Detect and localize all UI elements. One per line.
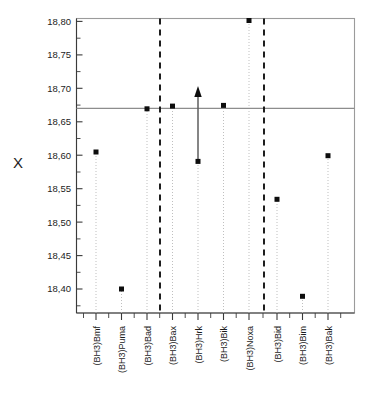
data-point[interactable]	[275, 197, 280, 202]
y-tick-label: 18,65	[47, 116, 71, 127]
category-label-bad: (BH3)Bad	[143, 326, 153, 366]
category-label-hrk: (BH3)Hrk	[194, 326, 204, 364]
data-point[interactable]	[145, 106, 150, 111]
data-point[interactable]	[221, 103, 226, 108]
data-point[interactable]	[300, 294, 305, 299]
category-label-bak: (BH3)Bak	[324, 326, 334, 366]
arrow-annotation-hrk	[194, 86, 201, 160]
y-tick-label: 18,80	[47, 16, 71, 27]
y-axis-tick-labels: 18,80 18,75 18,70 18,65 18,60 18,55 18,5…	[47, 16, 71, 295]
chart-container: 18,80 18,75 18,70 18,65 18,60 18,55 18,5…	[0, 0, 371, 396]
data-point[interactable]	[170, 104, 175, 109]
data-point[interactable]	[326, 153, 331, 158]
category-label-bid: (BH3)Bid	[273, 326, 283, 363]
y-tick-label: 18,50	[47, 217, 71, 228]
y-axis-title: X	[13, 154, 23, 171]
category-label-bmf: (BH3)Bmf	[92, 326, 102, 366]
x-axis-ticks	[84, 313, 341, 320]
data-point[interactable]	[119, 287, 124, 292]
plot-frame	[77, 19, 355, 314]
category-label-bik: (BH3)Bik	[219, 326, 229, 363]
category-label-bim: (BH3)Bim	[298, 326, 308, 365]
x-axis-category-labels: (BH3)Bmf (BH3)Puma (BH3)Bad (BH3)Bax (BH…	[92, 326, 334, 374]
category-label-bax: (BH3)Bax	[168, 326, 178, 366]
data-point[interactable]	[247, 18, 252, 23]
category-label-puma: (BH3)Puma	[117, 326, 127, 373]
category-label-noxa: (BH3)Noxa	[245, 326, 255, 371]
data-point[interactable]	[94, 150, 99, 155]
y-tick-label: 18,40	[47, 283, 71, 294]
y-axis-ticks	[77, 21, 83, 305]
droplines	[96, 20, 328, 313]
y-tick-label: 18,70	[47, 83, 71, 94]
y-tick-label: 18,45	[47, 250, 71, 261]
data-point[interactable]	[196, 159, 201, 164]
y-tick-label: 18,55	[47, 183, 71, 194]
arrow-head-icon	[194, 86, 201, 97]
data-markers	[94, 18, 331, 299]
bh3-profile-scatter-chart: 18,80 18,75 18,70 18,65 18,60 18,55 18,5…	[0, 0, 371, 396]
y-tick-label: 18,75	[47, 49, 71, 60]
y-tick-label: 18,60	[47, 150, 71, 161]
